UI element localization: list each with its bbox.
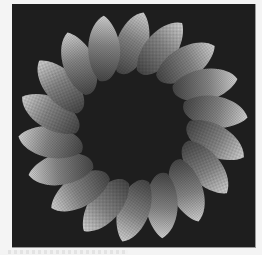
twisted-ring-render (12, 4, 255, 247)
render-canvas (12, 4, 256, 248)
scan-artifact-strip (8, 250, 128, 254)
petal-group (15, 7, 251, 247)
